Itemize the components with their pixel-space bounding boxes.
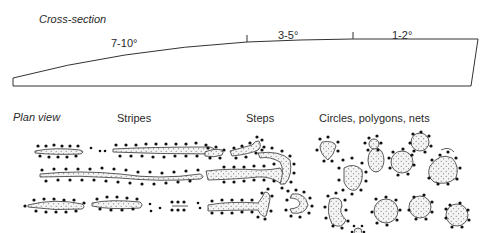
diagram-canvas [0,0,487,233]
cross-section-profile [13,32,478,86]
